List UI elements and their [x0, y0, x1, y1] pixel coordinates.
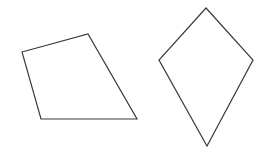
irregular-quadrilateral [22, 34, 137, 119]
kite-shape [159, 8, 253, 146]
diagram-canvas [0, 0, 268, 155]
